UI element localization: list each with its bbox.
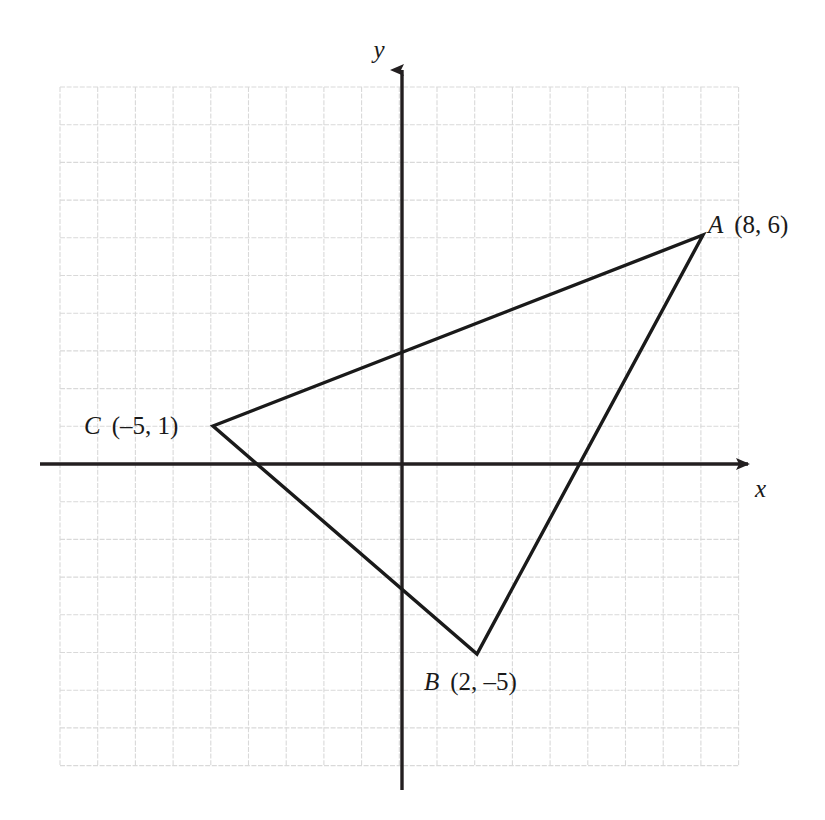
- coordinate-plane-figure: x y A (8, 6) B (2, –5) C (–5, 1): [0, 0, 825, 820]
- vertex-a-coords: (8, 6): [734, 211, 788, 239]
- vertex-label-c: C (–5, 1): [84, 412, 178, 440]
- x-axis-label: x: [754, 475, 766, 502]
- vertex-b-letter: B: [424, 668, 439, 695]
- vertex-label-b: B (2, –5): [424, 668, 517, 696]
- vertex-c-coords: (–5, 1): [112, 412, 179, 440]
- vertex-c-letter: C: [84, 412, 101, 439]
- coordinate-plane-svg: x y A (8, 6) B (2, –5) C (–5, 1): [0, 0, 825, 820]
- y-axis-label: y: [370, 36, 385, 63]
- vertex-label-a: A (8, 6): [706, 211, 788, 239]
- vertex-a-letter: A: [706, 211, 724, 238]
- vertex-b-coords: (2, –5): [450, 668, 517, 696]
